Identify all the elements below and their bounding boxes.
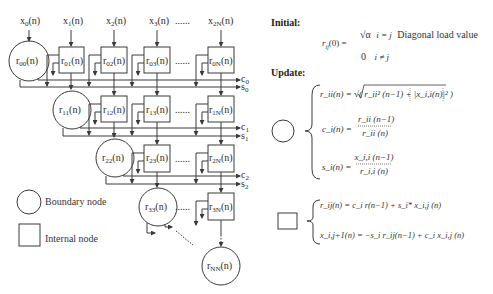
systolic-array-diagram: ...... ...... ...... ...... ...... x0(n)… [0, 0, 250, 294]
input-x0: x0(n) [20, 15, 40, 28]
label-r00: r00(n) [16, 55, 38, 68]
input-x2N: x2N(n) [208, 15, 233, 28]
boundary-node-icon [272, 120, 294, 142]
boundary-eq-ci-lhs: c_i(n) = [322, 124, 352, 134]
label-r22: r22(n) [102, 152, 124, 165]
label-rNN: rNN(n) [207, 260, 232, 273]
label-r2N: r2N(n) [209, 152, 233, 165]
internal-node-icon [278, 213, 297, 229]
internal-eq-xij: x_i,j+1(n) = −s_i r_ij(n−1) + c_i x_i,j … [320, 230, 464, 240]
label-r3N: r3N(n) [209, 201, 233, 214]
boundary-brace [305, 85, 320, 179]
boundary-eq-rii: r_ii(n) = √( r_ii² (n−1) + |x_i,i(n)|² ) [320, 89, 453, 99]
row2-ellipsis: ...... [175, 153, 190, 164]
label-r02: r02(n) [103, 55, 125, 68]
label-r01: r01(n) [61, 55, 83, 68]
internal-brace [307, 200, 320, 244]
boundary-eq-si-den: r_i,i (n) [354, 166, 394, 176]
boundary-eq-si-num: x_i,i (n−1) [354, 152, 394, 162]
boundary-eq-ci-den: r_ii (n) [358, 128, 392, 138]
boundary-eq-ci-num: r_ii (n−1) [358, 114, 392, 124]
row3-ellipsis: ...... [175, 201, 190, 212]
label-r12: r12(n) [103, 104, 125, 117]
equation-graphics [250, 0, 493, 294]
label-r1N: r1N(n) [209, 104, 233, 117]
row0-ellipsis: ...... [175, 55, 190, 66]
legend-boundary-icon [17, 190, 41, 214]
label-r23: r23(n) [146, 152, 168, 165]
input-x3: x3(n) [149, 15, 169, 28]
input-ellipsis: ...... [175, 15, 190, 26]
legend-boundary-label: Boundary node [45, 196, 106, 207]
input-x2: x2(n) [106, 15, 126, 28]
label-r33: r33(n) [145, 201, 167, 214]
equations-panel: Initial: rij(0) = √α i = j Diagonal load… [250, 0, 493, 294]
input-x1: x1(n) [63, 15, 83, 28]
label-r13: r13(n) [146, 104, 168, 117]
legend-internal-label: Internal node [45, 233, 98, 244]
label-r03: r03(n) [146, 55, 168, 68]
label-r0N: r0N(n) [209, 55, 233, 68]
row1-ellipsis: ...... [175, 104, 190, 115]
label-r11: r11(n) [59, 104, 81, 117]
internal-eq-rij: r_ij(n) = c_i r(n−1) + s_i* x_i,j (n) [320, 200, 441, 210]
boundary-eq-si-lhs: s_i(n) = [322, 162, 351, 172]
legend-internal-icon [19, 224, 40, 246]
